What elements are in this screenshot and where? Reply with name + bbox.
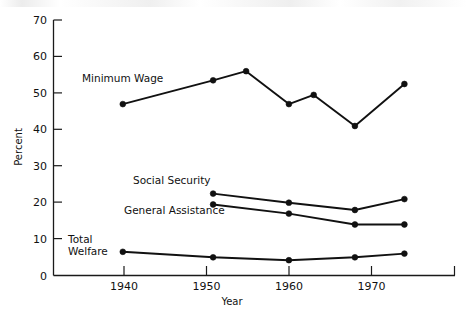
y-tick-label: 20 [33,196,47,209]
series-label-minimum-wage: Minimum Wage [82,72,163,84]
y-tick-label: 60 [33,50,47,63]
data-point [120,101,126,107]
series-label-total-welfare-line2: Welfare [68,245,108,257]
data-point [286,211,292,217]
data-point [311,92,317,98]
x-axis-title: Year [220,296,243,307]
chart-background [0,0,467,312]
data-point [210,191,216,197]
data-point [352,123,358,129]
chart-svg: 70 60 50 40 30 20 10 0 Percent 1940 1950… [0,0,467,312]
y-tick-label: 0 [40,270,47,283]
series-label-social-security: Social Security [133,174,211,186]
y-tick-label: 10 [33,233,47,246]
data-point [352,207,358,213]
data-point [210,254,216,260]
data-point [243,68,249,74]
data-point [120,249,126,255]
x-tick-label: 1960 [275,280,303,293]
series-label-general-assistance: General Assistance [124,204,225,216]
x-tick-label: 1950 [193,280,221,293]
data-point [402,222,408,228]
y-tick-label: 50 [33,87,47,100]
data-point [352,222,358,228]
series-label-total-welfare-line1: Total [67,233,93,245]
y-axis-title: Percent [13,128,24,166]
data-point [402,81,408,87]
data-point [286,257,292,263]
data-point [402,251,408,257]
data-point [210,77,216,83]
data-point [402,196,408,202]
x-tick-label: 1940 [110,280,138,293]
data-point [286,101,292,107]
y-tick-label: 30 [33,160,47,173]
data-point [286,200,292,206]
x-tick-label: 1970 [358,280,386,293]
y-tick-label: 40 [33,123,47,136]
line-chart: 70 60 50 40 30 20 10 0 Percent 1940 1950… [0,0,467,312]
data-point [352,254,358,260]
y-tick-label: 70 [33,14,47,27]
